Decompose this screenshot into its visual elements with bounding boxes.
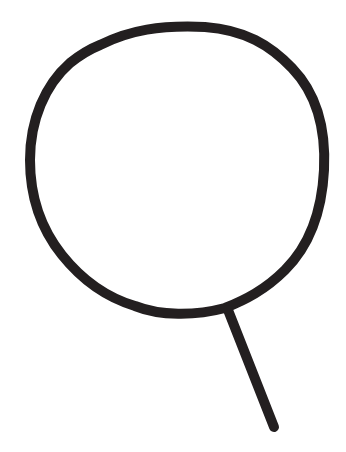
circle-with-stem-icon bbox=[0, 0, 346, 452]
stem-line bbox=[228, 310, 274, 427]
drawing-canvas bbox=[0, 0, 346, 452]
circle-outline bbox=[30, 27, 324, 314]
